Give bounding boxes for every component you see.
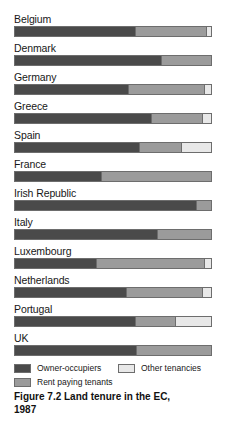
bar-segment-other-tenancies <box>175 317 211 326</box>
bar-group: Germany <box>14 71 212 95</box>
stacked-bar <box>14 26 212 37</box>
bar-segment-owner-occupiers <box>15 230 157 239</box>
chart-legend: Owner-occupiers Other tenancies Rent pay… <box>14 363 212 387</box>
figure-caption-line-2: 1987 <box>14 404 214 417</box>
bar-group: UK <box>14 332 212 356</box>
bar-segment-rent-paying-tenants <box>126 288 203 297</box>
bar-segment-rent-paying-tenants <box>157 230 211 239</box>
stacked-bar <box>14 84 212 95</box>
bar-segment-owner-occupiers <box>15 143 139 152</box>
bar-segment-owner-occupiers <box>15 259 96 268</box>
other-tenancies-swatch <box>118 364 135 373</box>
bar-segment-other-tenancies <box>206 27 211 36</box>
country-label: Germany <box>14 71 212 83</box>
bar-group: Italy <box>14 216 212 240</box>
legend-item-rent-paying-tenants: Rent paying tenants <box>14 377 118 387</box>
bar-group: France <box>14 158 212 182</box>
bar-segment-rent-paying-tenants <box>196 201 211 210</box>
legend-item-other-tenancies: Other tenancies <box>118 363 201 373</box>
bar-group: Portugal <box>14 303 212 327</box>
bar-group: Denmark <box>14 42 212 66</box>
owner-occupiers-swatch <box>14 364 31 373</box>
bar-segment-owner-occupiers <box>15 346 136 355</box>
country-label: Greece <box>14 100 212 112</box>
country-label: Denmark <box>14 42 212 54</box>
legend-row-2: Rent paying tenants <box>14 377 212 387</box>
bar-segment-other-tenancies <box>204 259 211 268</box>
country-label: UK <box>14 332 212 344</box>
bar-segment-rent-paying-tenants <box>135 27 206 36</box>
bar-segment-owner-occupiers <box>15 172 101 181</box>
figure-caption: Figure 7.2 Land tenure in the EC, 1987 <box>14 391 214 416</box>
stacked-bar <box>14 229 212 240</box>
bar-segment-rent-paying-tenants <box>139 143 181 152</box>
country-label: Italy <box>14 216 212 228</box>
stacked-bar <box>14 287 212 298</box>
bar-segment-other-tenancies <box>202 114 211 123</box>
country-label: Portugal <box>14 303 212 315</box>
bar-group: Belgium <box>14 13 212 37</box>
stacked-bar <box>14 113 212 124</box>
stacked-bar <box>14 55 212 66</box>
bar-segment-rent-paying-tenants <box>101 172 211 181</box>
bar-segment-other-tenancies <box>181 143 211 152</box>
bar-group: Spain <box>14 129 212 153</box>
bar-segment-rent-paying-tenants <box>135 317 175 326</box>
bar-group: Irish Republic <box>14 187 212 211</box>
bar-segment-rent-paying-tenants <box>128 85 205 94</box>
bar-group: Greece <box>14 100 212 124</box>
stacked-bar <box>14 200 212 211</box>
bar-chart-area: BelgiumDenmarkGermanyGreeceSpainFranceIr… <box>14 13 212 356</box>
country-label: Spain <box>14 129 212 141</box>
bar-segment-other-tenancies <box>204 85 211 94</box>
stacked-bar <box>14 142 212 153</box>
bar-segment-owner-occupiers <box>15 114 151 123</box>
bar-segment-owner-occupiers <box>15 56 161 65</box>
country-label: Irish Republic <box>14 187 212 199</box>
bar-segment-other-tenancies <box>202 288 211 297</box>
stacked-bar <box>14 345 212 356</box>
bar-segment-owner-occupiers <box>15 27 135 36</box>
bar-segment-rent-paying-tenants <box>161 56 211 65</box>
bar-segment-rent-paying-tenants <box>96 259 204 268</box>
legend-label-owner-occupiers: Owner-occupiers <box>37 363 101 373</box>
bar-segment-rent-paying-tenants <box>136 346 211 355</box>
bar-segment-owner-occupiers <box>15 201 196 210</box>
bar-segment-owner-occupiers <box>15 85 128 94</box>
legend-label-rent-paying-tenants: Rent paying tenants <box>37 377 113 387</box>
country-label: Luxembourg <box>14 245 212 257</box>
figure-caption-line-1: Figure 7.2 Land tenure in the EC, <box>14 391 214 404</box>
stacked-bar <box>14 316 212 327</box>
country-label: France <box>14 158 212 170</box>
stacked-bar <box>14 258 212 269</box>
country-label: Netherlands <box>14 274 212 286</box>
bar-segment-owner-occupiers <box>15 317 135 326</box>
legend-item-owner-occupiers: Owner-occupiers <box>14 363 118 373</box>
bar-segment-rent-paying-tenants <box>151 114 202 123</box>
bar-segment-owner-occupiers <box>15 288 126 297</box>
bar-group: Luxembourg <box>14 245 212 269</box>
country-label: Belgium <box>14 13 212 25</box>
legend-label-other-tenancies: Other tenancies <box>141 363 201 373</box>
rent-paying-tenants-swatch <box>14 378 31 387</box>
figure-land-tenure-ec: BelgiumDenmarkGermanyGreeceSpainFranceIr… <box>0 0 226 436</box>
stacked-bar <box>14 171 212 182</box>
bar-group: Netherlands <box>14 274 212 298</box>
legend-row-1: Owner-occupiers Other tenancies <box>14 363 212 373</box>
